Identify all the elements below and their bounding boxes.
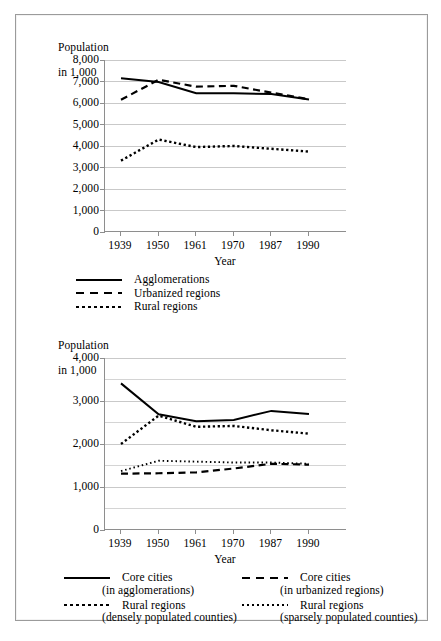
- y-tick-label: 7,000: [47, 76, 99, 88]
- y-tick-mark: [100, 401, 105, 402]
- legend-label: Core cities: [300, 571, 351, 583]
- y-tick-mark: [100, 189, 105, 190]
- legend-label: Rural regions: [134, 300, 198, 312]
- y-tick-mark: [100, 81, 105, 82]
- y-tick-mark: [100, 167, 105, 168]
- y-tick-mark: [100, 210, 105, 211]
- y-tick-label: 3,000: [47, 395, 99, 407]
- bottom-chart-series-lines: [105, 358, 347, 530]
- series-line: [121, 383, 309, 421]
- bottom-chart-x-axis-title: Year: [104, 554, 346, 566]
- legend-key-finedot: [242, 604, 288, 606]
- y-tick-mark: [100, 358, 105, 359]
- x-tick-label: 1990: [285, 240, 331, 252]
- x-tick-label: 1990: [285, 538, 331, 550]
- legend-key-dashed: [242, 577, 288, 579]
- series-line: [121, 78, 309, 99]
- legend-label: Urbanized regions: [134, 287, 220, 299]
- legend-sublabel: (sparsely populated counties): [280, 611, 418, 623]
- x-tick-mark: [195, 232, 196, 236]
- x-tick-mark: [195, 530, 196, 534]
- legend-label: Agglomerations: [134, 273, 210, 285]
- y-tick-label: 2,000: [47, 183, 99, 195]
- x-tick-mark: [308, 530, 309, 534]
- y-tick-mark: [100, 487, 105, 488]
- y-tick-mark: [100, 124, 105, 125]
- figure-page: Population in 1,000 8,0007,0006,0005,000…: [0, 0, 441, 641]
- top-chart-legend: AgglomerationsUrbanized regionsRural reg…: [76, 273, 356, 315]
- top-chart-plot-area: [104, 60, 346, 232]
- y-tick-label: 6,000: [47, 97, 99, 109]
- legend-key-solid: [76, 279, 122, 281]
- y-tick-label: 3,000: [47, 162, 99, 174]
- y-tick-label: 4,000: [47, 140, 99, 152]
- top-chart-x-axis-title: Year: [104, 256, 346, 268]
- y-tick-mark: [100, 444, 105, 445]
- y-tick-label: 2,000: [47, 438, 99, 450]
- legend-key-dashed: [76, 292, 122, 294]
- bottom-chart-plot-area: [104, 358, 346, 530]
- y-tick-mark: [100, 103, 105, 104]
- y-tick-label: 1,000: [47, 205, 99, 217]
- y-tick-label: 1,000: [47, 481, 99, 493]
- legend-key-dotted: [76, 306, 122, 308]
- series-line: [121, 140, 309, 161]
- x-tick-mark: [270, 232, 271, 236]
- x-tick-mark: [158, 530, 159, 534]
- y-tick-mark: [100, 232, 105, 233]
- bottom-chart: Population in 1,000 4,0003,0002,0001,000…: [16, 318, 425, 618]
- page-border: Population in 1,000 8,0007,0006,0005,000…: [15, 14, 428, 621]
- x-tick-mark: [158, 232, 159, 236]
- legend-sublabel: (densely populated counties): [102, 611, 237, 623]
- bottom-chart-y-axis-title-line1: Population: [58, 339, 109, 351]
- x-tick-mark: [308, 232, 309, 236]
- y-tick-label: 0: [47, 524, 99, 536]
- y-tick-mark: [100, 60, 105, 61]
- top-chart-series-lines: [105, 60, 347, 232]
- legend-sublabel: (in agglomerations): [102, 584, 194, 596]
- series-line: [121, 464, 309, 474]
- legend-label: Rural regions: [300, 599, 364, 611]
- bottom-chart-y-axis-title-line2: in 1,000: [58, 364, 97, 376]
- y-tick-mark: [100, 146, 105, 147]
- legend-label: Core cities: [122, 571, 173, 583]
- x-tick-mark: [270, 530, 271, 534]
- y-tick-label: 5,000: [47, 119, 99, 131]
- legend-key-dotted: [64, 604, 110, 606]
- y-tick-mark: [100, 530, 105, 531]
- y-tick-label: 4,000: [47, 352, 99, 364]
- legend-sublabel: (in urbanized regions): [280, 584, 384, 596]
- x-tick-mark: [233, 232, 234, 236]
- top-chart-y-axis-title-line1: Population: [58, 41, 109, 53]
- bottom-chart-legend: Core cities(in agglomerations)Core citie…: [64, 571, 414, 629]
- y-tick-label: 0: [47, 226, 99, 238]
- y-tick-label: 8,000: [47, 54, 99, 66]
- legend-label: Rural regions: [122, 599, 186, 611]
- x-tick-mark: [120, 232, 121, 236]
- legend-key-solid: [64, 577, 110, 579]
- x-tick-mark: [233, 530, 234, 534]
- series-line: [121, 80, 309, 100]
- x-tick-mark: [120, 530, 121, 534]
- top-chart: Population in 1,000 8,0007,0006,0005,000…: [16, 15, 425, 318]
